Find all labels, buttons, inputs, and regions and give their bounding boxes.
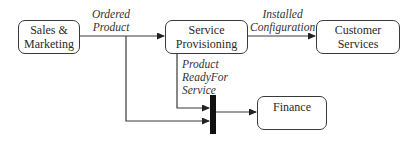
node-sales-marketing-line2: Marketing — [24, 37, 74, 51]
edge-label-product-ready-for-service: Product ReadyFor Service — [182, 58, 228, 97]
node-customer-services: Customer Services — [316, 20, 400, 54]
node-sales-marketing-line1: Sales & — [24, 23, 74, 37]
node-service-provisioning: Service Provisioning — [165, 20, 248, 54]
node-customer-services-line1: Customer — [335, 23, 382, 37]
node-finance: Finance — [257, 96, 327, 130]
edge-label-product-ready-line1: Product — [182, 58, 228, 71]
edge-label-installed-configuration-line1: Installed — [250, 8, 315, 21]
edge-label-installed-configuration: Installed Configuration — [250, 8, 315, 34]
edge-label-ordered-product-line2: Product — [92, 21, 130, 34]
node-service-provisioning-line1: Service — [176, 23, 237, 37]
edge-label-installed-configuration-line2: Configuration — [250, 21, 315, 34]
edge-label-product-ready-line3: Service — [182, 84, 228, 97]
node-customer-services-line2: Services — [335, 37, 382, 51]
edge-label-product-ready-line2: ReadyFor — [182, 71, 228, 84]
edge-label-ordered-product-line1: Ordered — [92, 8, 130, 21]
node-finance-label: Finance — [273, 100, 311, 114]
join-bar — [210, 95, 216, 134]
edge-label-ordered-product: Ordered Product — [92, 8, 130, 34]
node-service-provisioning-line2: Provisioning — [176, 37, 237, 51]
node-sales-marketing: Sales & Marketing — [18, 20, 80, 54]
